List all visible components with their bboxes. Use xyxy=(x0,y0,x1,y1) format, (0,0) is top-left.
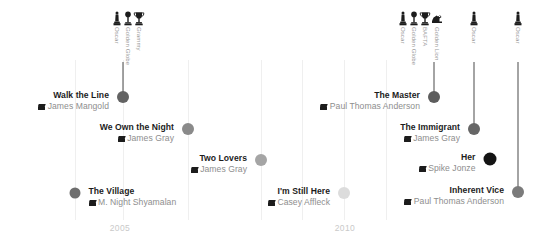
film-director-line: James Gray xyxy=(100,133,174,144)
film-director-line: James Gray xyxy=(191,164,247,175)
film-director: Paul Thomas Anderson xyxy=(330,101,420,111)
clapperboard-icon xyxy=(404,136,411,142)
film-datapoint[interactable] xyxy=(70,188,81,199)
film-title: We Own the Night xyxy=(100,122,174,133)
film-datapoint[interactable] xyxy=(428,91,440,103)
clapperboard-icon xyxy=(118,136,125,142)
film-datapoint[interactable] xyxy=(255,154,267,166)
film-director: James Gray xyxy=(200,164,247,174)
clapperboard-icon xyxy=(89,200,96,206)
film-director-line: Paul Thomas Anderson xyxy=(404,196,504,207)
film-datapoint[interactable] xyxy=(117,91,129,103)
award-label: Golden Lion xyxy=(434,27,440,60)
film-datapoint[interactable] xyxy=(484,153,497,166)
award-label: Oscar xyxy=(114,27,120,44)
golden-lion-icon xyxy=(431,11,443,26)
film-title: The Master xyxy=(320,90,420,101)
film-title: Two Lovers xyxy=(191,153,247,164)
award-label: Golden Globe xyxy=(411,27,417,65)
award-stem xyxy=(474,62,475,129)
gridline xyxy=(386,60,387,220)
film-director: Spike Jonze xyxy=(428,163,475,173)
clapperboard-icon xyxy=(38,104,45,110)
film-title: Walk the Line xyxy=(38,90,109,101)
award-label: BAFTA xyxy=(422,27,428,46)
film-director: Casey Affleck xyxy=(277,197,330,207)
film-datapoint[interactable] xyxy=(468,123,480,135)
film-director-line: M. Night Shyamalan xyxy=(89,197,177,208)
clapperboard-icon xyxy=(419,166,426,172)
film-director-line: Casey Affleck xyxy=(268,197,330,208)
oscar-statuette-icon xyxy=(512,11,524,26)
film-director-line: James Gray xyxy=(400,133,460,144)
film-datapoint[interactable] xyxy=(338,187,350,199)
clapperboard-icon xyxy=(320,104,327,110)
film-title: Inherent Vice xyxy=(404,185,504,196)
year-tick-label: 2010 xyxy=(335,223,356,233)
film-director: M. Night Shyamalan xyxy=(98,197,176,207)
film-director: Paul Thomas Anderson xyxy=(414,196,504,206)
year-tick-label: 2005 xyxy=(110,223,131,233)
grammy-trophy-icon xyxy=(133,11,145,26)
film-datapoint[interactable] xyxy=(512,186,524,198)
film-title: The Village xyxy=(89,186,177,197)
film-director-line: James Mangold xyxy=(38,101,109,112)
clapperboard-icon xyxy=(191,167,198,173)
bafta-trophy-icon xyxy=(419,11,431,26)
film-title: Her xyxy=(419,152,476,163)
clapperboard-icon xyxy=(404,199,411,205)
clapperboard-icon xyxy=(268,200,275,206)
film-director: James Gray xyxy=(413,133,460,143)
film-director-line: Paul Thomas Anderson xyxy=(320,101,420,112)
gridline xyxy=(188,60,189,220)
award-label: Oscar xyxy=(471,27,477,44)
award-label: Oscar xyxy=(515,27,521,44)
award-label: Golden Globe xyxy=(125,27,131,65)
award-label: Grammy xyxy=(136,27,142,51)
film-director-line: Spike Jonze xyxy=(419,163,476,174)
film-datapoint[interactable] xyxy=(182,123,194,135)
film-director: James Gray xyxy=(127,133,174,143)
film-title: The Immigrant xyxy=(400,122,460,133)
gridline xyxy=(261,60,262,220)
award-stem xyxy=(518,62,519,192)
oscar-statuette-icon xyxy=(468,11,480,26)
award-label: Oscar xyxy=(400,27,406,44)
timeline-chart: OscarGolden GlobeGrammyOscarGolden Globe… xyxy=(0,0,541,242)
film-title: I'm Still Here xyxy=(268,186,330,197)
film-director: James Mangold xyxy=(48,101,109,111)
